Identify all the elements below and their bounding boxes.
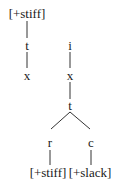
branch-feature-stiff: [+stiff] — [30, 166, 67, 179]
tree-edges — [0, 0, 114, 189]
right-node-x: x — [67, 69, 74, 82]
left-node-t: t — [25, 39, 29, 52]
left-node-x: x — [24, 69, 31, 82]
right-node-i: i — [68, 39, 72, 52]
branch-node-r: r — [48, 136, 52, 149]
edge-t-c — [70, 112, 90, 129]
branch-feature-slack: [+slack] — [69, 166, 112, 179]
right-node-t: t — [68, 99, 72, 112]
left-root-feature: [+stiff] — [9, 7, 46, 20]
branch-node-c: c — [88, 136, 94, 149]
edge-t-r — [51, 112, 70, 129]
